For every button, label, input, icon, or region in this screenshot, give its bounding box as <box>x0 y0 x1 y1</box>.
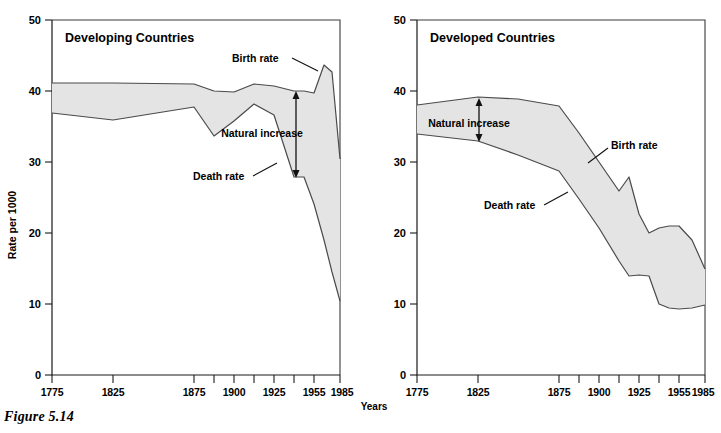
plot-frame-developed <box>417 20 705 375</box>
y-tick-label-50: 50 <box>29 14 41 26</box>
y-tick-label-30: 30 <box>29 156 41 168</box>
figure-root: 50 40 30 20 10 0 Rate per 1000 <box>0 0 721 433</box>
x-axis-title: Years <box>361 401 388 412</box>
y-ticks-developing <box>45 20 52 375</box>
x-tick-label-1985-developed: 1985 <box>692 386 715 398</box>
x-tick-label-1900-developed: 1900 <box>588 386 611 398</box>
death-rate-leader-developing <box>253 163 277 176</box>
x-tick-label-1875-developed: 1875 <box>548 386 571 398</box>
y-tick-label-0: 0 <box>35 369 41 381</box>
x-tick-label-1825-developed: 1825 <box>467 386 490 398</box>
x-tick-label-1925-developed: 1925 <box>628 386 651 398</box>
birth-rate-leader-developing <box>292 58 318 71</box>
death-rate-label-developed: Death rate <box>484 199 536 211</box>
x-ticks-developing <box>52 375 340 383</box>
plot-frame-developing <box>52 20 340 375</box>
y-tick-label-10-developed: 10 <box>394 298 406 310</box>
natural-increase-label-developing: Natural increase <box>221 127 303 139</box>
panel-title-developed: Developed Countries <box>430 31 555 45</box>
x-tick-label-1825-developing: 1825 <box>102 386 125 398</box>
x-tick-label-1875-developing: 1875 <box>183 386 206 398</box>
birth-rate-label-developing: Birth rate <box>232 52 279 64</box>
y-tick-label-0-developed: 0 <box>400 369 406 381</box>
panel-developing: 50 40 30 20 10 0 Rate per 1000 <box>6 14 354 398</box>
x-tick-label-1955-developed: 1955 <box>668 386 691 398</box>
y-tick-label-40: 40 <box>29 85 41 97</box>
panel-developed: 50 40 30 20 10 0 1775 1825 1875 <box>394 14 715 398</box>
y-tick-label-20: 20 <box>29 227 41 239</box>
figure-caption: Figure 5.14 <box>4 409 74 425</box>
x-tick-label-1955-developing: 1955 <box>303 386 326 398</box>
death-rate-leader-developed <box>544 192 568 205</box>
twin-panel-demographic-transition-chart: 50 40 30 20 10 0 Rate per 1000 <box>0 0 721 433</box>
panel-title-developing: Developing Countries <box>65 31 194 45</box>
natural-increase-band-developing <box>52 65 340 301</box>
birth-rate-label-developed: Birth rate <box>611 139 658 151</box>
y-ticks-developed <box>410 20 417 375</box>
death-rate-label-developing: Death rate <box>193 170 245 182</box>
x-tick-label-1775-developing: 1775 <box>41 386 64 398</box>
x-tick-label-1925-developing: 1925 <box>263 386 286 398</box>
y-tick-label-30-developed: 30 <box>394 156 406 168</box>
y-tick-label-10: 10 <box>29 298 41 310</box>
x-tick-label-1775-developed: 1775 <box>406 386 429 398</box>
x-ticks-developed <box>417 375 705 383</box>
x-tick-label-1985-developing: 1985 <box>331 386 354 398</box>
y-tick-label-50-developed: 50 <box>394 14 406 26</box>
y-tick-label-40-developed: 40 <box>394 85 406 97</box>
axes-developed <box>417 20 705 375</box>
y-axis-title-developing: Rate per 1000 <box>6 191 18 259</box>
x-tick-label-1900-developing: 1900 <box>223 386 246 398</box>
y-tick-label-20-developed: 20 <box>394 227 406 239</box>
axes-developing <box>52 20 340 375</box>
natural-increase-label-developed: Natural increase <box>428 117 510 129</box>
